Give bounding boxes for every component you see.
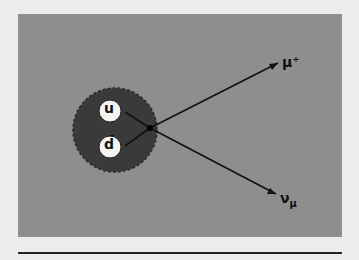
- quark-u-label: u: [104, 100, 114, 116]
- quark-dbar-label: d̄: [104, 136, 114, 152]
- neutrino-base: ν: [280, 190, 290, 206]
- feynman-diagram: [0, 0, 359, 260]
- neutrino-arrowhead-icon: [267, 188, 276, 194]
- neutrino-label: νμ: [280, 190, 297, 209]
- neutrino-subscript: μ: [290, 198, 297, 209]
- vertex-dot: [147, 125, 153, 131]
- neutrino-line: [150, 128, 276, 194]
- bottom-rule: [18, 252, 342, 254]
- muon-label: μ⁺: [282, 54, 300, 70]
- muon-line: [150, 63, 278, 128]
- muon-arrowhead-icon: [269, 63, 278, 70]
- meson-circle: [73, 88, 157, 172]
